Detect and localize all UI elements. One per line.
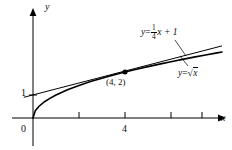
tangency-point-marker — [123, 70, 128, 75]
fraction-denominator: 4 — [151, 32, 157, 41]
tangent-rest: x + 1 — [157, 27, 177, 37]
y-axis-label: y — [45, 2, 49, 12]
one-fourth-fraction: 14 — [151, 24, 157, 41]
curve-equation-label: y=√x — [178, 69, 198, 79]
figure-canvas: y x 0 1 4 (4, 2) y=14x + 1 y=√x — [0, 0, 232, 150]
radicand: x — [193, 67, 198, 78]
y-tick-label-1: 1 — [21, 88, 26, 98]
tangent-line-equation-label: y=14x + 1 — [141, 24, 177, 41]
point-coordinates-label: (4, 2) — [106, 78, 126, 87]
tangent-equals: = — [145, 27, 150, 37]
fraction-numerator: 1 — [151, 24, 157, 32]
x-axis-label: x — [221, 113, 225, 123]
origin-label: 0 — [21, 124, 26, 134]
radical-sign: √x — [188, 69, 198, 79]
y-axis-arrowhead — [30, 8, 37, 16]
x-tick-label-4: 4 — [122, 124, 127, 134]
sqrt-curve — [33, 52, 222, 118]
curve-label-leader — [180, 56, 188, 66]
tangent-label-leader — [175, 40, 186, 56]
